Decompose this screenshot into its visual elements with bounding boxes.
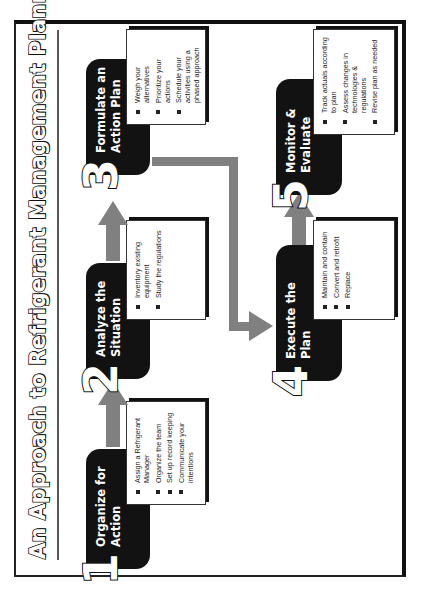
step-3-bullet: Weigh your alternatives xyxy=(133,36,151,114)
step-5-bullet: Revise plan as needed xyxy=(370,36,379,124)
step-1-details: Assign a Refrigerant Manager Organize th… xyxy=(126,401,206,505)
step-3-number: 3 xyxy=(78,159,124,191)
step-2-details: Inventory existing equipment Study the r… xyxy=(126,220,206,320)
step-3-details: Weigh your alternatives Prioritize your … xyxy=(126,29,206,125)
step-2-title: Analyze the Situation xyxy=(94,281,124,357)
step-2-bullet: Inventory existing equipment xyxy=(133,227,151,309)
step-3-bullet: Schedule your activities using a phased … xyxy=(174,36,201,114)
step-4-bullet: Replace xyxy=(343,227,352,309)
step-1-bullet: Communicate your intentions xyxy=(177,408,195,494)
diagram-canvas: An Approach to Refrigerant Management Pl… xyxy=(0,0,422,593)
step-2-bullet: Study the regulations xyxy=(154,227,163,309)
step-4-title: Execute the Plan xyxy=(284,282,314,359)
step-1-title: Organize for Action xyxy=(94,466,124,547)
arrow-head-icon xyxy=(98,201,128,225)
step-3-title: Formulate an Action Plan xyxy=(94,67,124,153)
step-4-bullet: Maintain and contain xyxy=(320,227,329,309)
step-5-title: Monitor & Evaluate xyxy=(284,108,314,173)
step-5-bullet: Assess changes in technologies & regulat… xyxy=(341,36,368,124)
step-1-number: 1 xyxy=(78,553,124,585)
step-1-bullet: Assign a Refrigerant Manager xyxy=(133,408,151,494)
step-5-number: 5 xyxy=(268,179,314,211)
title-divider xyxy=(57,30,59,560)
step-1-bullet: Set up record keeping xyxy=(165,408,174,494)
arrow-step2-to-step3 xyxy=(98,201,128,261)
step-4-bullet: Convert and retrofit xyxy=(332,227,341,309)
step-5-bullet: Track actuals according to plan xyxy=(320,36,338,124)
arrow-head-icon xyxy=(249,311,273,341)
step-1-bullet: Organize the team xyxy=(154,408,163,494)
step-4-details: Maintain and contain Convert and retrofi… xyxy=(313,220,395,320)
step-3-bullet: Prioritize your actions xyxy=(154,36,172,114)
diagram-title: An Approach to Refrigerant Management Pl… xyxy=(26,39,56,559)
step-4-number: 4 xyxy=(268,365,314,397)
step-2-number: 2 xyxy=(78,363,124,395)
step-5-details: Track actuals according to plan Assess c… xyxy=(313,29,395,135)
